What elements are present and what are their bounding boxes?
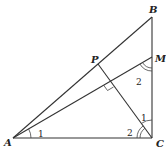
label-a: A — [3, 137, 12, 148]
label-m: M — [154, 53, 166, 64]
label-c: C — [156, 138, 164, 149]
angle-label-m-2: 2 — [136, 77, 142, 87]
angle-arc-a — [29, 129, 31, 138]
label-b: B — [148, 4, 157, 15]
angle-label-c-2: 2 — [127, 128, 133, 138]
segment-cp — [98, 64, 152, 138]
label-p: P — [90, 54, 99, 65]
segment-ab — [13, 17, 152, 138]
angle-arc-m-inner — [143, 63, 153, 69]
angle-arc-c-lower-inner — [140, 128, 145, 138]
right-angle-marker — [104, 85, 114, 91]
geometry-diagram: B M P A C 1 2 1 2 — [0, 0, 166, 162]
angle-label-a-1: 1 — [38, 129, 44, 139]
angle-label-c-1: 1 — [141, 113, 147, 123]
segment-am — [13, 57, 152, 138]
